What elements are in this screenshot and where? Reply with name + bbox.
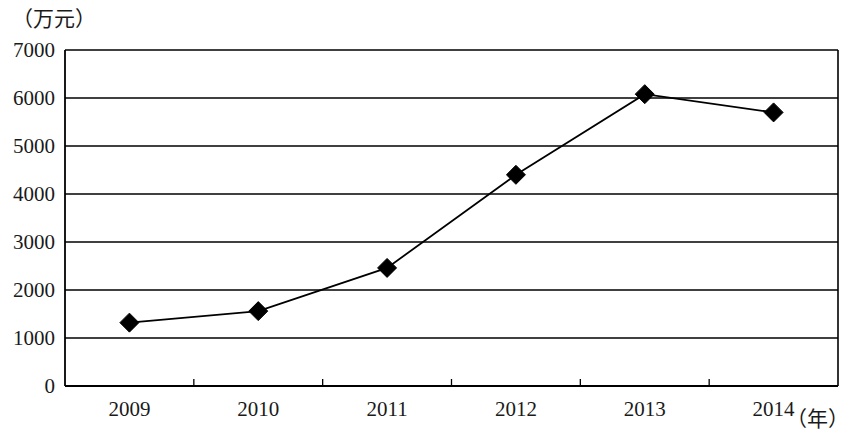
x-axis-tick-label: 2013: [624, 397, 666, 421]
data-point-marker: [120, 313, 139, 332]
x-axis-unit-label: （年）: [786, 402, 849, 432]
data-point-marker: [378, 258, 397, 277]
x-axis-tick-label: 2010: [237, 397, 279, 421]
y-axis-tick-label: 2000: [13, 278, 55, 302]
y-axis-tick-label: 4000: [13, 182, 55, 206]
y-axis-tick-label: 7000: [13, 38, 55, 62]
data-point-marker: [506, 165, 525, 184]
y-axis-tick-label: 0: [45, 374, 56, 398]
data-point-marker: [249, 302, 268, 321]
y-axis-tick-label: 6000: [13, 86, 55, 110]
data-point-marker: [635, 85, 654, 104]
data-point-marker: [764, 103, 783, 122]
y-axis-tick-label: 3000: [13, 230, 55, 254]
y-axis-tick-labels-group: 01000200030004000500060007000: [13, 38, 55, 398]
y-axis-tick-label: 1000: [13, 326, 55, 350]
x-axis-tick-label: 2011: [366, 397, 407, 421]
x-axis-tick-label: 2012: [495, 397, 537, 421]
x-axis-tick-labels-group: 200920102011201220132014: [108, 397, 795, 421]
axis-frame-group: [65, 50, 838, 386]
x-axis-tick-label: 2009: [108, 397, 150, 421]
data-series-line: [129, 94, 773, 322]
data-point-markers-group: [120, 85, 783, 332]
y-axis-tick-label: 5000: [13, 134, 55, 158]
gridlines-group: [65, 50, 838, 338]
x-axis-ticks-group: [194, 379, 709, 386]
